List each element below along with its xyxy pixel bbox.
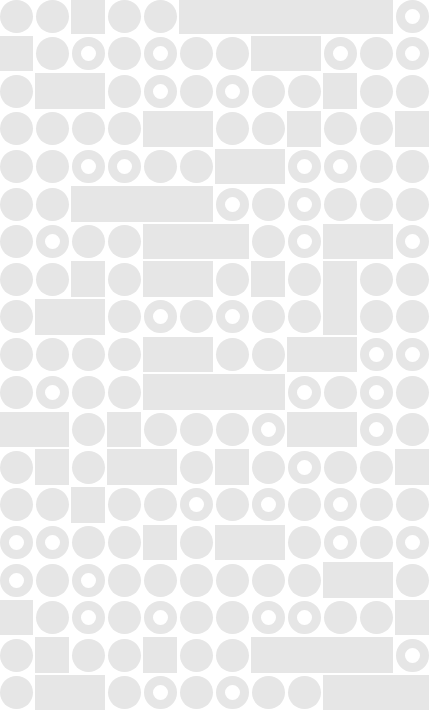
circle-tile — [180, 451, 213, 484]
ring-tile — [108, 150, 141, 183]
rectangle-tile — [323, 562, 393, 598]
circle-tile — [72, 376, 105, 409]
circle-tile — [360, 601, 393, 634]
circle-tile — [216, 112, 249, 145]
rectangle-tile — [251, 637, 393, 673]
circle-tile — [72, 413, 105, 446]
circle-tile — [396, 376, 429, 409]
ring-tile — [252, 488, 285, 521]
ring-tile — [288, 601, 321, 634]
rectangle-tile — [323, 261, 357, 334]
rectangle-tile — [323, 224, 393, 260]
ring-tile — [72, 37, 105, 70]
circle-tile — [396, 488, 429, 521]
rectangle-tile — [143, 261, 213, 297]
circle-tile — [180, 526, 213, 559]
circle-tile — [36, 112, 69, 145]
circle-tile — [72, 338, 105, 371]
circle-tile — [360, 300, 393, 333]
circle-tile — [108, 75, 141, 108]
square-tile — [0, 600, 33, 636]
circle-tile — [324, 376, 357, 409]
circle-tile — [180, 150, 213, 183]
circle-tile — [36, 0, 69, 33]
square-tile — [395, 449, 429, 485]
circle-tile — [108, 225, 141, 258]
circle-tile — [144, 413, 177, 446]
circle-tile — [360, 526, 393, 559]
circle-tile — [252, 112, 285, 145]
geometric-pattern — [0, 0, 433, 710]
circle-tile — [396, 150, 429, 183]
circle-tile — [36, 601, 69, 634]
circle-tile — [360, 488, 393, 521]
square-tile — [395, 111, 429, 147]
rectangle-tile — [323, 675, 429, 710]
circle-tile — [0, 338, 33, 371]
circle-tile — [0, 112, 33, 145]
circle-tile — [180, 601, 213, 634]
circle-tile — [360, 150, 393, 183]
circle-tile — [72, 451, 105, 484]
circle-tile — [360, 263, 393, 296]
ring-tile — [252, 413, 285, 446]
circle-tile — [36, 37, 69, 70]
circle-tile — [0, 488, 33, 521]
circle-tile — [0, 150, 33, 183]
rectangle-tile — [287, 412, 357, 448]
circle-tile — [108, 263, 141, 296]
ring-tile — [216, 188, 249, 221]
circle-tile — [0, 263, 33, 296]
ring-tile — [36, 526, 69, 559]
square-tile — [71, 261, 105, 297]
circle-tile — [0, 188, 33, 221]
circle-tile — [252, 338, 285, 371]
circle-tile — [108, 112, 141, 145]
circle-tile — [36, 150, 69, 183]
circle-tile — [252, 225, 285, 258]
ring-tile — [288, 150, 321, 183]
circle-tile — [0, 75, 33, 108]
circle-tile — [396, 300, 429, 333]
circle-tile — [180, 413, 213, 446]
circle-tile — [36, 263, 69, 296]
ring-tile — [252, 601, 285, 634]
circle-tile — [108, 338, 141, 371]
circle-tile — [108, 0, 141, 33]
square-tile — [71, 487, 105, 523]
circle-tile — [396, 188, 429, 221]
rectangle-tile — [143, 337, 213, 373]
ring-tile — [216, 676, 249, 709]
circle-tile — [180, 300, 213, 333]
circle-tile — [216, 413, 249, 446]
circle-tile — [0, 300, 33, 333]
circle-tile — [180, 676, 213, 709]
circle-tile — [108, 639, 141, 672]
rectangle-tile — [179, 0, 393, 34]
circle-tile — [252, 300, 285, 333]
rectangle-tile — [107, 449, 177, 485]
rectangle-tile — [35, 299, 105, 335]
ring-tile — [0, 526, 33, 559]
square-tile — [251, 261, 285, 297]
circle-tile — [216, 263, 249, 296]
ring-tile — [72, 564, 105, 597]
circle-tile — [108, 376, 141, 409]
circle-tile — [180, 75, 213, 108]
circle-tile — [108, 564, 141, 597]
circle-tile — [288, 75, 321, 108]
ring-tile — [216, 75, 249, 108]
circle-tile — [360, 451, 393, 484]
square-tile — [35, 449, 69, 485]
circle-tile — [216, 639, 249, 672]
ring-tile — [324, 526, 357, 559]
circle-tile — [288, 526, 321, 559]
ring-tile — [360, 413, 393, 446]
circle-tile — [36, 338, 69, 371]
circle-tile — [252, 451, 285, 484]
circle-tile — [144, 488, 177, 521]
ring-tile — [36, 376, 69, 409]
circle-tile — [396, 75, 429, 108]
ring-tile — [216, 300, 249, 333]
ring-tile — [396, 37, 429, 70]
